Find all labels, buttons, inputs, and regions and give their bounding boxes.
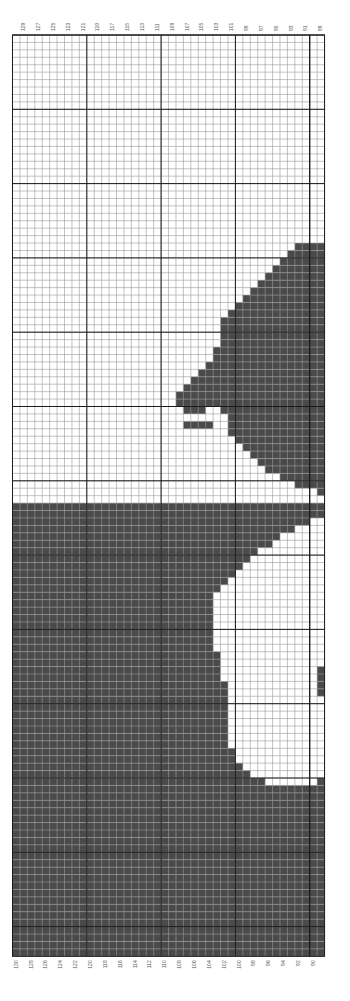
column-label: 100 [236,960,242,969]
filled-stitch-run [13,711,228,718]
column-label: 125 [50,22,56,31]
filled-stitch-run [317,667,324,674]
column-label: 130 [13,960,19,969]
column-label: 119 [94,23,100,31]
filled-stitch-run [13,607,214,614]
filled-stitch-run [13,689,228,696]
column-label: 116 [117,960,123,968]
column-label: 92 [295,960,301,966]
column-label: 114 [132,960,138,968]
filled-stitch-run [13,696,228,703]
filled-stitch-run [13,763,243,770]
column-label: 111 [154,23,160,31]
filled-stitch-run [183,384,324,391]
filled-stitch-run [13,577,228,584]
column-label: 127 [35,22,41,31]
column-label: 121 [80,22,86,31]
column-label: 106 [191,960,197,969]
filled-stitch-run [13,726,228,733]
column-label: 101 [228,22,234,31]
column-label: 90 [310,960,316,966]
filled-stitch-run [317,674,324,681]
column-label: 91 [302,25,308,31]
stitch-chart: 1291271251231211191171151131111091071051… [0,0,350,1001]
column-label: 120 [87,960,93,969]
filled-stitch-run [213,347,324,354]
column-label: 104 [206,960,212,969]
filled-stitch-run [243,295,325,302]
filled-stitch-run [258,459,325,466]
column-label: 99 [243,25,249,31]
column-label: 102 [221,960,227,969]
filled-stitch-run [243,444,325,451]
filled-stitch-run [13,592,214,599]
column-label: 95 [273,25,279,31]
column-label: 118 [102,960,108,968]
filled-stitch-run [258,280,325,287]
filled-stitch-run [13,644,214,651]
filled-stitch-run [317,681,324,688]
column-label: 117 [109,23,115,31]
filled-stitch-run [13,615,214,622]
column-label: 94 [280,960,286,966]
column-label: 97 [258,25,264,31]
column-label: 123 [65,22,71,31]
column-label: 103 [213,22,219,31]
column-label: 93 [288,25,294,31]
filled-stitch-run [273,265,325,272]
column-label: 110 [161,960,167,968]
column-label: 108 [176,960,182,969]
column-label: 113 [139,23,145,31]
filled-stitch-run [317,689,324,696]
filled-stitch-run [13,733,228,740]
filled-stitch-run [13,741,228,748]
filled-stitch-run [13,600,214,607]
column-label: 109 [169,22,175,31]
column-label: 96 [265,960,271,966]
filled-stitch-run [213,354,324,361]
filled-stitch-run [317,778,324,785]
column-label: 129 [20,22,26,31]
column-label: 115 [124,23,130,31]
column-label: 107 [184,22,190,31]
filled-stitch-run [13,548,258,555]
filled-stitch-run [13,629,214,636]
column-label: 124 [57,960,63,969]
column-label: 89 [317,25,323,31]
column-label: 128 [28,960,34,969]
filled-stitch-run [13,637,214,644]
filled-stitch-run [183,407,205,414]
filled-stitch-run [13,563,243,570]
column-label: 126 [42,960,48,969]
filled-stitch-run [317,488,324,495]
column-label: 122 [72,960,78,969]
column-label: 105 [198,22,204,31]
bottom-column-labels: 1301281261241221201181161141121101081061… [13,960,316,969]
filled-stitch-run [13,540,273,547]
column-label: 112 [146,960,152,968]
top-column-labels: 1291271251231211191171151131111091071051… [20,22,323,31]
filled-stitch-run [13,622,214,629]
filled-stitch-run [13,719,228,726]
column-label: 98 [250,960,256,966]
filled-stitch-run [198,369,324,376]
filled-stitch-run [13,704,228,711]
filled-stitch-run [13,681,228,688]
filled-stitch-run [287,250,324,257]
